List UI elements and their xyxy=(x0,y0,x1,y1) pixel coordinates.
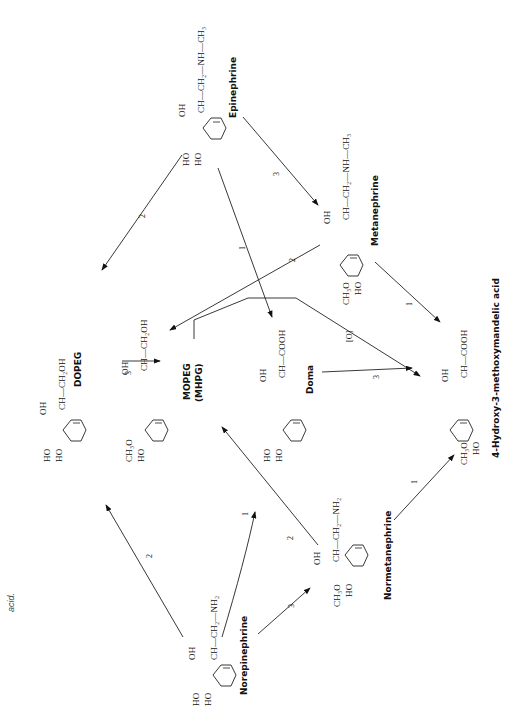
norepinephrine-label: Norepinephrine xyxy=(239,616,249,695)
metanephrine-sidechain: CH—CH₂—NH—CH₃ xyxy=(341,134,351,220)
dopeg-label: DOPEG xyxy=(73,352,83,387)
arrow-label-normet-vma: 1 xyxy=(410,480,419,484)
vma-ring-sub-1: CH₃O xyxy=(459,442,469,465)
doma-ring-sub-1: HO xyxy=(262,449,272,462)
mopeg-ring-sub-2: HO xyxy=(136,449,146,462)
epinephrine-oh: OH xyxy=(177,104,187,117)
norepinephrine-ring-sub-2: HO xyxy=(203,693,213,706)
norepinephrine-ring-sub-1: HO xyxy=(191,693,201,706)
arrow-label-normet-mopeg: 2 xyxy=(286,536,295,540)
normetanephrine-ring-sub-1: CH₃O xyxy=(332,584,342,607)
vma-ring-sub-2: HO xyxy=(471,442,481,455)
dopeg-ring-sub-1: HO xyxy=(42,449,52,462)
vma-sidechain: CH—COOH xyxy=(459,330,469,378)
ring-epinephrine xyxy=(203,118,226,139)
arrow-label-epi-met: 3 xyxy=(272,172,281,176)
metanephrine-ring-sub-1: CH₃O xyxy=(341,282,351,305)
caption-fragment: acid. xyxy=(6,593,16,612)
mopeg-alt-label: (MHPG) xyxy=(194,363,204,402)
metanephrine-ring-sub-2: HO xyxy=(353,282,363,295)
epinephrine-ring-sub-1: HO xyxy=(181,153,191,166)
benzene-rings xyxy=(63,118,473,686)
epinephrine-ring-sub-2: HO xyxy=(193,153,203,166)
arrow-epi-dopeg xyxy=(102,155,182,270)
normetanephrine-oh: OH xyxy=(312,552,322,565)
arrow-label-met-vma: 1 xyxy=(405,302,414,306)
arrow-epi-doma xyxy=(218,168,272,317)
doma-oh: OH xyxy=(258,369,268,382)
normetanephrine-sidechain: CH—CH₂—NH₂ xyxy=(331,498,341,562)
arrow-label-ne-normet: 3 xyxy=(287,604,296,608)
norepinephrine-sidechain: CH—CH₂—NH₂ xyxy=(209,596,219,660)
mopeg-oh: OH xyxy=(120,362,130,375)
arrow-met-mopeg xyxy=(170,245,320,330)
arrow-normet-mopeg xyxy=(222,427,318,545)
arrow-label-met-mopeg: 2 xyxy=(288,258,297,262)
arrow-epi-met xyxy=(243,117,318,205)
catecholamine-metabolism-diagram: acid. HO HO OH CH—CH₂—NH₂ Norepinephrine… xyxy=(0,0,506,723)
dopeg-sidechain: CH—CH₂OH xyxy=(57,358,67,410)
mopeg-ring-sub-1: CH₃O xyxy=(124,439,134,462)
normetanephrine-label: Normetanephrine xyxy=(383,511,393,600)
dopeg-ring-sub-2: HO xyxy=(54,449,64,462)
vma-label: 4-Hydroxy-3-methoxymandelic acid xyxy=(491,278,501,458)
metanephrine-oh: OH xyxy=(322,211,332,224)
norepinephrine-oh: OH xyxy=(187,647,197,660)
vma-oh: OH xyxy=(440,369,450,382)
arrow-doma-vma xyxy=(322,368,412,372)
mopeg-sidechain: CH—CH₂OH xyxy=(139,319,149,371)
arrow-ne-normet xyxy=(258,588,310,634)
doma-label: Doma xyxy=(305,365,315,394)
epinephrine-label: Epinephrine xyxy=(228,57,238,118)
arrow-label-mopeg-vma: [O] xyxy=(345,331,354,342)
arrow-label-ne-dopeg: 2 xyxy=(145,554,154,558)
arrow-label-ne-doma: 1 xyxy=(241,512,250,516)
ring-double-bonds xyxy=(73,122,467,668)
arrow-label-epi-dopeg: 2 xyxy=(138,214,147,218)
doma-ring-sub-2: HO xyxy=(274,449,284,462)
arrow-met-vma xyxy=(375,262,440,322)
arrow-label-epi-doma: 1 xyxy=(238,246,247,250)
dopeg-oh: OH xyxy=(38,402,48,415)
arrow-normet-vma xyxy=(394,455,454,520)
metanephrine-label: Metanephrine xyxy=(370,175,380,246)
mopeg-label: MOPEG xyxy=(182,363,192,400)
arrow-label-doma-vma: 3 xyxy=(372,375,381,379)
arrow-ne-dopeg xyxy=(106,505,183,637)
doma-sidechain: CH—COOH xyxy=(277,330,287,378)
normetanephrine-ring-sub-2: HO xyxy=(344,584,354,597)
epinephrine-sidechain: CH—CH₂—NH—CH₃ xyxy=(196,27,206,113)
